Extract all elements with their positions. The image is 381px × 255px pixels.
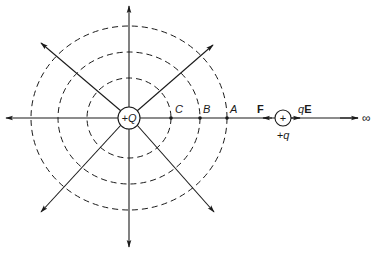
- field-line-nw: [41, 43, 121, 111]
- force-qe-e: E: [304, 103, 311, 115]
- points: C B A: [169, 103, 237, 120]
- test-charge: + +q: [275, 110, 291, 141]
- test-charge-symbol: +: [280, 112, 286, 124]
- point-c-label: C: [175, 103, 183, 115]
- point-b-dot: [198, 116, 202, 120]
- force-f-label: F: [257, 103, 264, 115]
- force-qe-label: qE: [298, 103, 311, 115]
- field-lines: [6, 6, 358, 247]
- point-a-dot: [225, 116, 229, 120]
- source-charge-label: +Q: [122, 112, 137, 124]
- source-charge: +Q: [118, 107, 140, 129]
- diagram-canvas: +Q C B A + +q F qE ∞: [0, 0, 381, 255]
- point-c-dot: [169, 116, 173, 120]
- point-a-label: A: [229, 103, 237, 115]
- point-b-label: B: [203, 103, 210, 115]
- field-line-sw: [41, 125, 121, 212]
- test-charge-label: +q: [277, 129, 290, 141]
- infinity-symbol: ∞: [362, 111, 371, 125]
